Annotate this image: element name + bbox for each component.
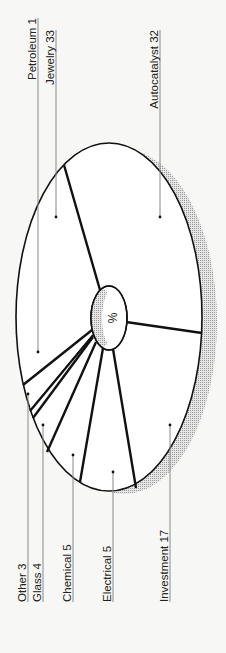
leader-dot-electrical <box>112 471 115 474</box>
label-glass: Glass 4 <box>31 562 43 602</box>
label-chemical: Chemical 5 <box>61 544 73 602</box>
label-autocatalyst: Autocatalyst 32 <box>148 30 160 109</box>
hub-percent-label: % <box>106 312 120 323</box>
leader-dot-other <box>27 393 30 396</box>
label-petroleum: Petroleum 1 <box>26 18 38 80</box>
leader-dot-jewelry <box>55 216 58 219</box>
leader-dot-glass <box>42 424 45 427</box>
pie-chart: % Petroleum 1Jewelry 33Autocatalyst 32Ot… <box>0 0 226 653</box>
label-jewelry: Jewelry 33 <box>44 30 56 85</box>
leader-dot-petroleum <box>37 351 40 354</box>
leader-dot-autocatalyst <box>159 216 162 219</box>
label-other: Other 3 <box>16 564 28 602</box>
leader-dot-chemical <box>72 454 75 457</box>
leader-dot-investment <box>169 424 172 427</box>
label-electrical: Electrical 5 <box>101 546 113 602</box>
label-investment: Investment 17 <box>158 530 170 602</box>
